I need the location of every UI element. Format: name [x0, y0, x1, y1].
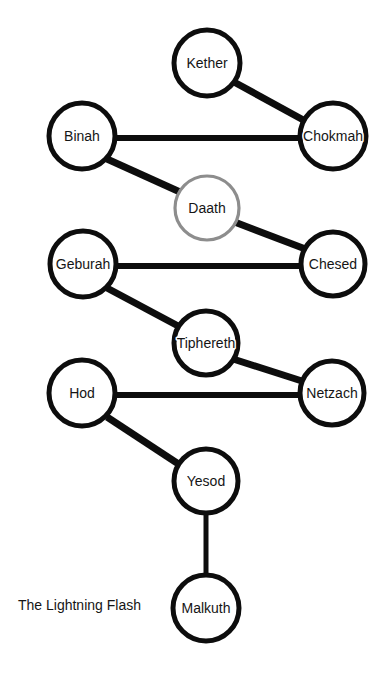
edge-geburah-tiphereth [107, 288, 180, 327]
sephira-label-tiphereth: Tiphereth [177, 335, 236, 351]
sephira-label-yesod: Yesod [187, 473, 225, 489]
sephira-chesed[interactable]: Chesed [301, 232, 365, 296]
tree-of-life-canvas: KetherChokmahBinahDaathChesedGeburahTiph… [0, 0, 384, 685]
sephira-malkuth[interactable]: Malkuth [173, 575, 239, 641]
sephira-label-geburah: Geburah [56, 256, 110, 272]
diagram-caption: The Lightning Flash [18, 597, 141, 613]
sephira-chokmah[interactable]: Chokmah [300, 103, 366, 169]
sephira-yesod[interactable]: Yesod [174, 449, 238, 513]
sephira-tiphereth[interactable]: Tiphereth [174, 311, 238, 375]
sephira-label-kether: Kether [186, 55, 228, 71]
sephira-label-hod: Hod [69, 385, 95, 401]
sephira-label-malkuth: Malkuth [181, 600, 230, 616]
edge-kether-chokmah [234, 82, 307, 122]
sephira-hod[interactable]: Hod [49, 360, 115, 426]
sephira-binah[interactable]: Binah [49, 103, 115, 169]
edge-daath-chesed [232, 221, 308, 250]
sephira-netzach[interactable]: Netzach [300, 361, 364, 425]
sephira-label-binah: Binah [64, 128, 100, 144]
sephira-daath[interactable]: Daath [175, 176, 239, 240]
sephira-label-chesed: Chesed [309, 256, 357, 272]
sephira-kether[interactable]: Kether [174, 30, 240, 96]
edge-hod-yesod [107, 417, 180, 465]
edge-binah-daath [107, 159, 180, 192]
lightning-flash-diagram: KetherChokmahBinahDaathChesedGeburahTiph… [0, 0, 384, 685]
edge-tiphereth-netzach [230, 358, 305, 382]
sephira-label-netzach: Netzach [306, 385, 357, 401]
sephira-label-daath: Daath [188, 200, 225, 216]
sephira-geburah[interactable]: Geburah [50, 231, 116, 297]
sephira-label-chokmah: Chokmah [303, 128, 363, 144]
